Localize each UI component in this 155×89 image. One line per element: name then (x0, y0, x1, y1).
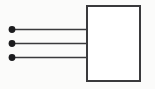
terminal-dot-3 (9, 54, 16, 61)
diagram-svg (0, 0, 155, 89)
diagram-canvas (0, 0, 155, 89)
terminal-dot-2 (9, 40, 16, 47)
terminal-dot-1 (9, 26, 16, 33)
block-box (87, 6, 140, 81)
